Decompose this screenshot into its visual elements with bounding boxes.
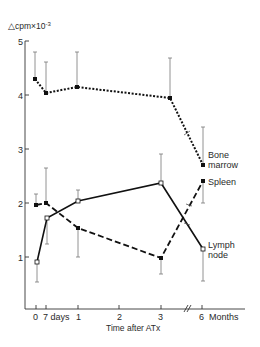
svg-text:4: 4 [18,91,23,101]
svg-text:2: 2 [117,312,122,322]
x-axis-title: Time after ATx [106,323,161,333]
svg-text:1: 1 [18,253,23,263]
y-axis-title: △cpm×10-3 [8,21,51,31]
svg-text:Months: Months [209,312,239,322]
label-bone-marrow-2: marrow [208,160,239,170]
svg-text:3: 3 [158,312,163,322]
series-lymph-node [35,181,205,264]
label-spleen: Spleen [208,177,236,187]
svg-text:3: 3 [18,145,23,155]
label-lymph-node: Lymph [208,240,235,250]
axis-break-icon [184,305,191,312]
series-labels: Bone marrow Spleen Lymph node [208,150,239,260]
label-bone-marrow: Bone [208,150,229,160]
line-chart: △cpm×10-3 5 4 3 2 1 0 7 days 1 2 3 [0,0,260,347]
svg-text:5: 5 [18,37,23,47]
x-tick-labels: 0 7 days 1 2 3 6 Months [33,312,239,322]
series-spleen [34,179,205,260]
series-bone-marrow [33,77,205,167]
axes [25,41,245,309]
svg-text:0: 0 [33,312,38,322]
svg-text:1: 1 [76,312,81,322]
svg-text:6: 6 [199,312,204,322]
svg-text:2: 2 [18,199,23,209]
y-tick-labels: 5 4 3 2 1 [18,37,23,263]
error-bars [33,52,205,282]
svg-text:7 days: 7 days [43,312,70,322]
label-lymph-node-2: node [208,250,228,260]
